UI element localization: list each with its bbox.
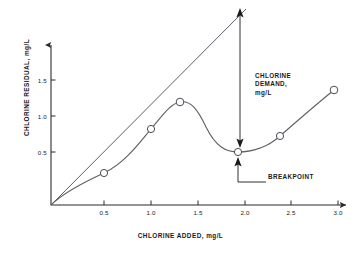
data-point-markers <box>100 86 337 176</box>
y-axis-title: CHLORINE RESIDUAL, mg/L <box>23 18 30 158</box>
x-tick-label-1.5: 1.5 <box>193 209 202 216</box>
reference-line-series <box>51 9 246 205</box>
data-point-1.0 <box>147 125 154 132</box>
y-tick-label-0.5: 0.5 <box>31 149 47 156</box>
chlorine-demand-annotation: CHLORINE DEMAND, mg/L <box>255 72 291 97</box>
x-axis-ticks <box>104 201 338 206</box>
y-tick-label-1.5: 1.5 <box>31 77 47 84</box>
x-tick-label-0.5: 0.5 <box>99 209 108 216</box>
x-tick-label-1.0: 1.0 <box>146 209 155 216</box>
y-axis-ticks <box>51 80 56 152</box>
x-tick-label-2.5: 2.5 <box>286 209 295 216</box>
x-axis-title: CHLORINE ADDED, mg/L <box>0 232 361 239</box>
data-point-2.0-breakpoint <box>234 148 241 155</box>
chlorine-demand-line-1: CHLORINE <box>255 72 291 80</box>
data-point-0.5 <box>100 169 107 176</box>
chlorine-demand-line-2: DEMAND, <box>255 80 291 88</box>
x-tick-label-3.0: 3.0 <box>333 209 342 216</box>
y-tick-label-1.0: 1.0 <box>31 113 47 120</box>
x-tick-label-2.0: 2.0 <box>240 209 249 216</box>
data-point-3.0 <box>330 86 338 94</box>
chlorine-demand-line-3: mg/L <box>255 89 291 97</box>
breakpoint-chlorination-plot <box>0 0 361 254</box>
breakpoint-annotation-label: BREAKPOINT <box>268 173 314 180</box>
data-point-2.5 <box>276 132 283 139</box>
chart-figure: 0.5 1.0 1.5 2.0 2.5 3.0 0.5 1.0 1.5 CHLO… <box>0 0 361 254</box>
axis-lines <box>51 45 346 205</box>
chlorine-demand-arrow <box>236 8 243 148</box>
breakpoint-leader <box>234 157 266 182</box>
chlorine-residual-curve <box>51 90 334 205</box>
breakpoint-elbow-line <box>238 176 266 182</box>
data-point-1.5 <box>176 98 184 106</box>
